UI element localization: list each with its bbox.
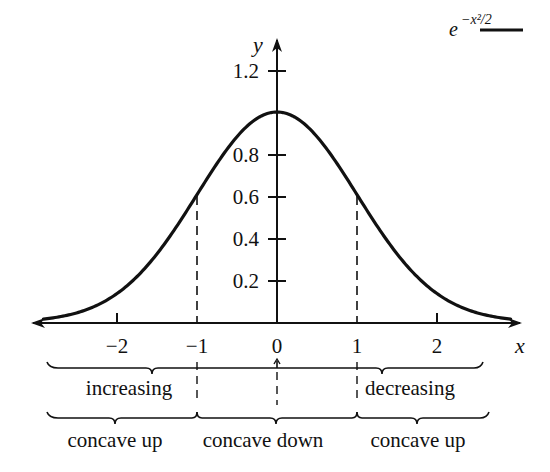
legend-label-exponent: −x²/2 bbox=[461, 12, 492, 27]
y-tick-label: 0.6 bbox=[233, 185, 259, 209]
y-tick-label: 0.8 bbox=[233, 143, 259, 167]
y-tick-label: 0.2 bbox=[233, 269, 259, 293]
x-tick-label: −1 bbox=[186, 334, 208, 358]
legend-label-base: e bbox=[449, 18, 458, 40]
y-axis-label: y bbox=[251, 32, 263, 57]
label-concave-up-left: concave up bbox=[67, 428, 162, 452]
chart-canvas: −2 −1 0 1 2 x 0.2 0.4 0.6 0.8 1.2 y e −x… bbox=[0, 0, 550, 472]
x-tick-label: 0 bbox=[272, 334, 283, 358]
legend: e −x²/2 bbox=[449, 12, 523, 40]
gaussian-chart: −2 −1 0 1 2 x 0.2 0.4 0.6 0.8 1.2 y e −x… bbox=[0, 0, 550, 472]
monotonicity-braces bbox=[47, 359, 483, 374]
x-tick-label: 2 bbox=[432, 334, 443, 358]
label-decreasing: decreasing bbox=[365, 376, 455, 400]
x-tick-label: −2 bbox=[106, 334, 128, 358]
label-increasing: increasing bbox=[86, 376, 173, 400]
x-tick-label: 1 bbox=[352, 334, 363, 358]
x-axis-label: x bbox=[514, 333, 525, 358]
label-concave-up-right: concave up bbox=[370, 428, 465, 452]
label-concave-down: concave down bbox=[203, 428, 324, 452]
y-tick-label: 1.2 bbox=[233, 59, 259, 83]
concavity-braces bbox=[47, 412, 489, 424]
y-tick-label: 0.4 bbox=[233, 227, 260, 251]
